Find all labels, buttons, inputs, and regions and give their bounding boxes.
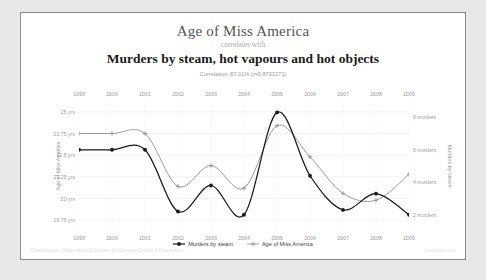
title-block: Age of Miss America correlates with Murd…: [21, 23, 465, 79]
chart-title-primary: Age of Miss America: [21, 23, 465, 40]
data-point: [110, 148, 114, 152]
x-axis-tick: 2005: [271, 91, 283, 97]
data-point: [308, 174, 312, 178]
chart-legend: Murders by steamAge of Miss America: [21, 241, 465, 247]
x-axis-tick: 2004: [238, 91, 250, 97]
data-point: [209, 184, 213, 188]
data-point: [110, 131, 114, 135]
data-point: [242, 213, 246, 217]
chart-card: Age of Miss America correlates with Murd…: [20, 12, 466, 260]
data-point: [374, 192, 378, 196]
data-point: [275, 110, 279, 114]
y-axis-left-tick: 21.25 yrs: [54, 174, 79, 180]
source-note: Data sources: Wikipedia and Centers for …: [31, 248, 182, 253]
x-axis-tick: 2002: [172, 91, 184, 97]
data-point: [176, 210, 180, 214]
y-axis-right-title: Murders by steam: [446, 144, 452, 187]
chart-svg: [79, 101, 409, 231]
chart-title-connector: correlates with: [21, 40, 465, 50]
x-axis-tick: 2008: [370, 91, 382, 97]
plot-area: Age of Miss America Murders by steam 25 …: [79, 101, 409, 231]
x-axis-tick: 2001: [139, 91, 151, 97]
x-axis-tick: 2000: [106, 91, 118, 97]
y-axis-right-tick: 6 murders: [409, 147, 436, 153]
data-point: [143, 148, 147, 152]
x-axis-tick: 2003: [205, 91, 217, 97]
data-point: [341, 208, 345, 212]
y-axis-left-tick: 22.5 yrs: [56, 152, 79, 158]
x-axis-tick: 2007: [337, 91, 349, 97]
legend-filled-marker-icon: [173, 241, 185, 247]
y-axis-right-tick: 2 murders: [409, 212, 436, 218]
data-point: [209, 163, 213, 167]
data-point: [79, 131, 81, 135]
legend-plus-marker-icon: [247, 241, 259, 247]
y-axis-left-title: Age of Miss America: [55, 141, 61, 190]
y-axis-left-tick: 25 yrs: [61, 109, 79, 115]
legend-label: Age of Miss America: [262, 241, 313, 247]
correlation-label: Correlation: 87.01% (r=0.8701271): [21, 70, 465, 79]
legend-item[interactable]: Murders by steam: [173, 241, 233, 247]
x-axis-tick: 2009: [403, 91, 415, 97]
chart-title-secondary: Murders by steam, hot vapours and hot ob…: [21, 50, 465, 68]
y-axis-left-tick: 23.75 yrs: [54, 131, 79, 137]
y-axis-left-tick: 20 yrs: [61, 196, 79, 202]
data-point: [79, 148, 81, 152]
legend-label: Murders by steam: [188, 241, 233, 247]
y-axis-right-tick: 4 murders: [409, 179, 436, 185]
legend-item[interactable]: Age of Miss America: [247, 241, 313, 247]
watermark-label: tylervigen.com: [424, 248, 455, 253]
data-point: [176, 184, 180, 188]
y-axis-right-tick: 8 murders: [409, 114, 436, 120]
x-axis-tick: 1999: [73, 91, 85, 97]
y-axis-left-tick: 18.75 yrs: [54, 217, 79, 223]
x-axis-tick: 2006: [304, 91, 316, 97]
